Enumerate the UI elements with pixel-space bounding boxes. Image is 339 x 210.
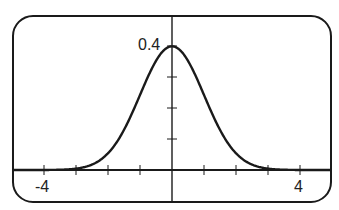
y-tick-label-0.4: 0.4	[138, 37, 160, 53]
x-tick-label-4: 4	[294, 179, 303, 195]
normal-distribution-chart	[0, 0, 339, 210]
x-tick-label-neg4: -4	[35, 179, 49, 195]
